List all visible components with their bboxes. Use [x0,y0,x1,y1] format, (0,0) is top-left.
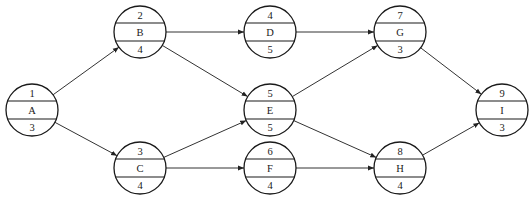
node-f: 6F4 [244,142,296,194]
node-a: 1A3 [6,84,58,136]
node-number: 1 [29,88,34,99]
node-activity: A [28,105,36,116]
node-activity: D [266,27,274,38]
node-duration: 4 [397,180,403,191]
node-activity: E [267,105,273,116]
node-g: 7G3 [374,6,426,58]
node-duration: 3 [29,122,34,133]
nodes-layer: 1A32B43C44D55E56F47G38H49I3 [6,6,528,194]
node-duration: 4 [137,44,143,55]
node-duration: 5 [267,122,272,133]
node-duration: 4 [137,180,143,191]
node-activity: F [267,163,273,174]
node-duration: 5 [267,44,272,55]
node-number: 4 [267,10,273,21]
node-activity: B [136,27,143,38]
node-number: 9 [499,88,504,99]
node-duration: 4 [267,180,273,191]
node-duration: 3 [499,122,504,133]
network-diagram: 1A32B43C44D55E56F47G38H49I3 [0,0,532,199]
node-activity: G [396,27,404,38]
node-number: 8 [397,146,402,157]
edge-2-to-5 [162,45,247,96]
node-activity: H [396,163,404,174]
node-e: 5E5 [244,84,296,136]
node-number: 6 [267,146,272,157]
node-number: 3 [137,146,142,157]
edge-5-to-7 [292,45,377,96]
edge-3-to-5 [164,121,247,158]
node-number: 7 [397,10,402,21]
edge-7-to-9 [421,48,482,94]
node-b: 2B4 [114,6,166,58]
edge-8-to-9 [423,123,480,155]
edge-5-to-8 [294,121,377,158]
edge-1-to-3 [55,122,117,155]
node-c: 3C4 [114,142,166,194]
edge-1-to-2 [53,47,119,95]
node-duration: 3 [397,44,402,55]
node-d: 4D5 [244,6,296,58]
node-i: 9I3 [476,84,528,136]
node-number: 5 [267,88,272,99]
node-activity: C [136,163,143,174]
node-h: 8H4 [374,142,426,194]
node-activity: I [500,105,504,116]
node-number: 2 [137,10,142,21]
